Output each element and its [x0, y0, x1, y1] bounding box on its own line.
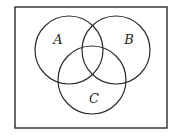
set-a-circle — [35, 16, 103, 84]
set-b-label: B — [123, 32, 134, 47]
set-b-circle — [82, 16, 150, 84]
venn-diagram: A B C — [0, 0, 172, 137]
set-c-label: C — [89, 91, 99, 106]
set-a-label: A — [52, 32, 62, 47]
universe-frame — [15, 7, 167, 128]
